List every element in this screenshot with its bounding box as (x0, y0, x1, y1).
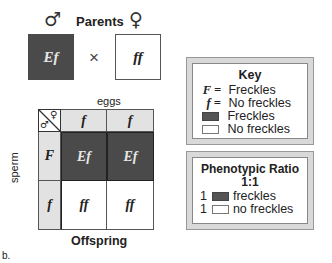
parent-male-genotype: Ef (44, 49, 59, 66)
light-swatch-icon (202, 125, 219, 134)
ratio-label: no freckles (233, 202, 293, 216)
egg-allele-1: f (61, 109, 107, 132)
key-entry-label: No freckles (228, 96, 291, 110)
offspring-cell: Ef (61, 132, 107, 181)
offspring-label: Offspring (71, 234, 127, 248)
male-symbol-icon: ♂ (44, 10, 61, 29)
ratio-count: 1 (200, 189, 207, 203)
ratio-panel: Phenotypic Ratio 1:1 1 freckles 1 no fre… (186, 151, 314, 230)
sperm-allele-text: F (45, 148, 54, 164)
key-entry-label: Freckles (228, 83, 275, 97)
ratio-entry: 1 freckles (200, 189, 276, 203)
light-swatch-icon (212, 205, 229, 214)
sperm-allele-1: F (38, 132, 61, 181)
offspring-cell: Ef (107, 132, 154, 181)
dark-swatch-icon (202, 112, 219, 121)
female-symbol-icon: ♀ (129, 10, 143, 29)
sperm-allele-text: f (47, 197, 52, 213)
cross-icon: × (89, 48, 99, 68)
egg-allele-2: f (107, 109, 154, 132)
key-entry-label: Freckles (227, 109, 274, 123)
egg-allele-text: f (81, 113, 86, 129)
key-title: Key (193, 68, 307, 82)
sperm-label: sperm (8, 152, 20, 183)
key-panel: Key F = Freckles f = No freckles Freckle… (186, 57, 314, 145)
ratio-value: 1:1 (193, 175, 307, 189)
dark-swatch-icon (212, 192, 229, 201)
offspring-genotype: ff (79, 197, 88, 213)
offspring-genotype: Ef (124, 149, 138, 165)
punnett-corner: ♀ ♂ (38, 109, 61, 132)
male-symbol-icon: ♂ (40, 119, 49, 130)
parent-male-genotype-box: Ef (28, 34, 74, 80)
offspring-genotype: ff (125, 197, 134, 213)
ratio-title: Phenotypic Ratio (193, 162, 307, 176)
key-entry: Freckles (202, 109, 275, 123)
key-panel-inner: Key F = Freckles f = No freckles Freckle… (192, 63, 308, 139)
parent-female-genotype: ff (133, 49, 143, 66)
offspring-genotype: Ef (77, 149, 91, 165)
ratio-entry: 1 no freckles (200, 202, 293, 216)
ratio-count: 1 (200, 202, 207, 216)
ratio-panel-inner: Phenotypic Ratio 1:1 1 freckles 1 no fre… (192, 157, 308, 224)
parents-title: Parents (76, 14, 124, 29)
key-entry: No freckles (202, 122, 290, 136)
key-entry-label: No freckles (227, 122, 290, 136)
figure-label: b. (2, 250, 10, 261)
offspring-cell: ff (107, 181, 154, 230)
parent-female-genotype-box: ff (115, 34, 161, 80)
punnett-square: ♀ ♂ f f F f Ef Ef ff ff (38, 109, 154, 230)
sperm-allele-2: f (38, 181, 61, 230)
ratio-label: freckles (233, 189, 276, 203)
offspring-cell: ff (61, 181, 107, 230)
egg-allele-text: f (128, 113, 133, 129)
female-symbol-icon: ♀ (50, 109, 57, 120)
eggs-label: eggs (97, 95, 121, 107)
